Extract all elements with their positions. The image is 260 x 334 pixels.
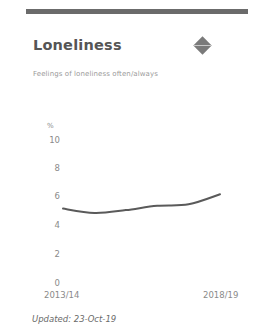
y-tick: 2 (55, 249, 60, 259)
line-chart: % 10 8 6 4 2 0 2013/14 2018/19 (0, 0, 260, 334)
y-axis-ticks: 10 8 6 4 2 0 (49, 135, 60, 288)
x-tick-end: 2018/19 (203, 290, 238, 300)
y-tick: 6 (55, 191, 60, 201)
y-tick: 0 (55, 278, 60, 288)
y-tick: 10 (49, 135, 60, 145)
y-tick: 4 (55, 220, 60, 230)
x-tick-start: 2013/14 (44, 290, 79, 300)
y-tick: 8 (55, 163, 60, 173)
x-axis-ticks: 2013/14 2018/19 (44, 290, 238, 300)
series-line (63, 194, 220, 213)
y-axis-unit: % (47, 122, 54, 130)
updated-date: Updated: 23-Oct-19 (32, 314, 116, 324)
